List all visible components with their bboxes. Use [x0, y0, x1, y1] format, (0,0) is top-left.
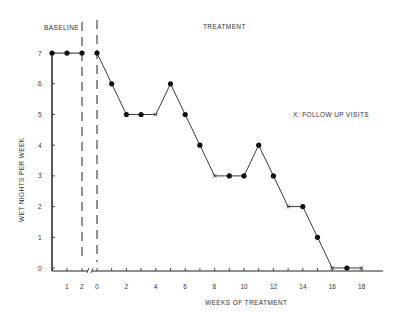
data-point-dot	[109, 81, 114, 86]
x-tick-label: 12	[270, 283, 278, 290]
x-tick-label: 10	[241, 283, 249, 290]
y-tick-label: 5	[38, 111, 42, 118]
legend-note: X: FOLLOW UP VISITS	[293, 111, 369, 118]
data-point-dot	[124, 112, 129, 117]
y-tick-label: 6	[38, 80, 42, 87]
x-tick-label: 4	[154, 283, 158, 290]
data-point-dot	[168, 81, 173, 86]
data-point-dot	[344, 265, 349, 270]
x-tick-label: 0	[95, 283, 99, 290]
data-point-dot	[139, 112, 144, 117]
x-axis-title: WEEKS OF TREATMENT	[205, 299, 287, 306]
data-point-dot	[183, 112, 188, 117]
x-tick-label: 18	[358, 283, 366, 290]
axes: 0123456712024681012141618	[38, 50, 383, 290]
data-point-dot	[79, 51, 84, 56]
data-point-dot	[241, 173, 246, 178]
y-axis-title: WET NIGHTS PER WEEK	[18, 137, 25, 222]
wet-nights-chart: 0123456712024681012141618 BASELINE TREAT…	[0, 0, 399, 320]
data-point-dot	[227, 173, 232, 178]
y-tick-label: 1	[38, 234, 42, 241]
x-tick-label: 2	[80, 283, 84, 290]
y-tick-label: 3	[38, 172, 42, 179]
data-point-dot	[256, 143, 261, 148]
x-tick-label: 16	[329, 283, 337, 290]
data-point-dot	[271, 173, 276, 178]
data-point-dot	[300, 204, 305, 209]
treatment-label: TREATMENT	[203, 23, 246, 30]
y-tick-label: 0	[38, 265, 42, 272]
data-point-dot	[64, 51, 69, 56]
x-tick-label: 8	[213, 283, 217, 290]
data-point-dot	[197, 143, 202, 148]
x-tick-label: 6	[183, 283, 187, 290]
data-point-dot	[49, 51, 54, 56]
x-tick-label: 14	[299, 283, 307, 290]
baseline-label: BASELINE	[44, 24, 79, 31]
x-tick-label: 2	[124, 283, 128, 290]
phase-dividers	[82, 20, 97, 262]
y-tick-label: 2	[38, 203, 42, 210]
data-point-dot	[94, 51, 99, 56]
x-tick-label: 1	[65, 283, 69, 290]
treatment-line	[97, 53, 362, 268]
data-point-dot	[315, 235, 320, 240]
y-tick-label: 7	[38, 50, 42, 57]
y-tick-label: 4	[38, 142, 42, 149]
